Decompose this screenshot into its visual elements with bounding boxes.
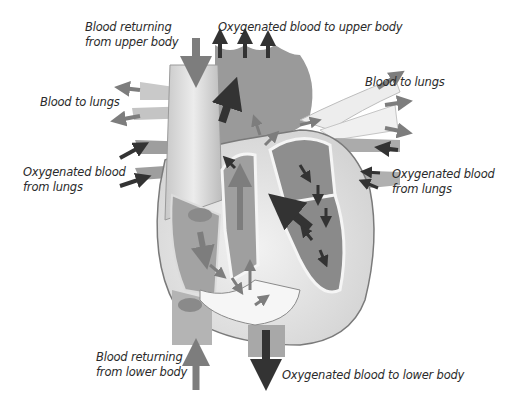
label-line: Blood returning bbox=[85, 20, 178, 35]
valve bbox=[188, 208, 212, 222]
label-line: Oxygenated blood bbox=[392, 167, 495, 182]
label-oxygenated-blood-from-lungs-right: Oxygenated blood from lungs bbox=[392, 167, 495, 197]
label-line: Blood to lungs bbox=[365, 75, 445, 90]
label-line: Oxygenated blood to lower body bbox=[282, 368, 464, 383]
label-line: Oxygenated blood to upper body bbox=[218, 20, 402, 35]
label-line: from lungs bbox=[392, 182, 495, 197]
label-line: from lower body bbox=[96, 365, 187, 380]
label-blood-to-lungs-left: Blood to lungs bbox=[40, 95, 120, 110]
label-oxygenated-blood-lower-body: Oxygenated blood to lower body bbox=[282, 368, 464, 383]
label-line: from upper body bbox=[85, 35, 178, 50]
valve bbox=[178, 298, 202, 312]
label-oxygenated-blood-from-lungs-left: Oxygenated blood from lungs bbox=[23, 165, 126, 195]
label-blood-returning-upper-body: Blood returning from upper body bbox=[85, 20, 178, 50]
label-blood-to-lungs-right: Blood to lungs bbox=[365, 75, 445, 90]
label-oxygenated-blood-upper-body: Oxygenated blood to upper body bbox=[218, 20, 402, 35]
heart-illustration bbox=[0, 0, 507, 402]
heart-diagram: Blood returning from upper body Oxygenat… bbox=[0, 0, 507, 402]
label-blood-returning-lower-body: Blood returning from lower body bbox=[96, 350, 187, 380]
label-line: Blood returning bbox=[96, 350, 187, 365]
label-line: Oxygenated blood bbox=[23, 165, 126, 180]
label-line: Blood to lungs bbox=[40, 95, 120, 110]
label-line: from lungs bbox=[23, 180, 126, 195]
